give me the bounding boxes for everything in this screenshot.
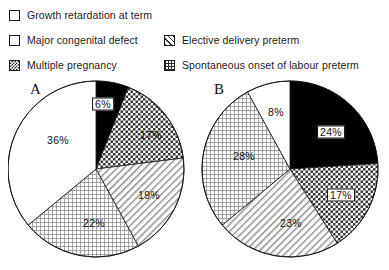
slice-label-b-2: 23% — [280, 217, 302, 229]
legend-item-2: Multiple pregnancy — [9, 59, 117, 71]
swatch-diag — [164, 35, 175, 46]
legend-item-label: Elective delivery preterm — [182, 34, 299, 46]
slice-label-a-3: 22% — [83, 217, 105, 229]
legend-item-label: Major congenital defect — [27, 34, 138, 46]
slice-label-b-1: 17% — [327, 189, 355, 202]
pie-chart-a: A 6%17%19%22%36% — [8, 78, 188, 270]
swatch-grid — [164, 60, 175, 71]
panel-letter-a: A — [30, 81, 41, 98]
slice-label-b-3: 28% — [233, 150, 255, 162]
swatch-blank — [9, 10, 20, 21]
pie-chart-b-svg — [198, 78, 386, 270]
legend-item-0: Growth retardation at term — [9, 9, 152, 21]
pie-chart-b: B 24%17%23%28%8% — [198, 78, 386, 270]
slice-label-a-2: 19% — [138, 189, 160, 201]
legend-item-label: Spontaneous onset of labour preterm — [182, 59, 359, 71]
swatch-solid — [9, 35, 20, 46]
legend-item-label: Growth retardation at term — [27, 9, 152, 21]
panel-letter-b: B — [214, 81, 224, 98]
slice-label-a-1: 17% — [140, 129, 162, 141]
slice-label-a-4: 36% — [47, 134, 69, 146]
slice-label-b-4: 8% — [268, 106, 284, 118]
legend-item-3: Elective delivery preterm — [164, 34, 299, 46]
legend-item-label: Multiple pregnancy — [27, 59, 117, 71]
slice-label-b-0: 24% — [317, 126, 345, 139]
legend-item-1: Major congenital defect — [9, 34, 138, 46]
slice-label-a-0: 6% — [92, 98, 114, 111]
swatch-checker — [9, 60, 20, 71]
legend-item-4: Spontaneous onset of labour preterm — [164, 59, 359, 71]
legend: Growth retardation at termMajor congenit… — [0, 0, 389, 78]
